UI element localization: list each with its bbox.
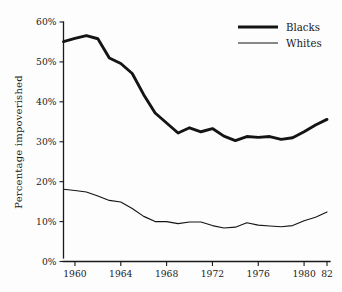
series-line-whites bbox=[64, 189, 328, 228]
x-tick-label: 1964 bbox=[109, 268, 133, 279]
x-axis-ticks bbox=[75, 262, 327, 267]
y-axis-tick-labels: 0%10%20%30%40%50%60% bbox=[36, 16, 57, 267]
y-tick-label: 40% bbox=[36, 96, 57, 107]
y-tick-label: 50% bbox=[36, 56, 57, 67]
poverty-rate-line-chart: 0%10%20%30%40%50%60% 1960196419681972197… bbox=[0, 0, 342, 292]
x-tick-label: 1976 bbox=[247, 268, 271, 279]
y-tick-label: 0% bbox=[42, 256, 57, 267]
chart-plot-area: 0%10%20%30%40%50%60% 1960196419681972197… bbox=[0, 0, 342, 292]
x-tick-label: 82 bbox=[321, 268, 333, 279]
series-line-blacks bbox=[64, 36, 328, 141]
x-tick-label: 1968 bbox=[155, 268, 179, 279]
x-tick-label: 1972 bbox=[201, 268, 224, 279]
y-tick-label: 30% bbox=[36, 136, 57, 147]
y-tick-label: 60% bbox=[36, 16, 57, 27]
y-axis-label: Percentage impoverished bbox=[13, 75, 24, 209]
x-tick-label: 1980 bbox=[292, 268, 316, 279]
legend-label-blacks: Blacks bbox=[286, 22, 320, 33]
y-tick-label: 10% bbox=[36, 216, 57, 227]
x-axis-tick-labels: 19601964196819721976198082 bbox=[63, 268, 333, 279]
legend-label-whites: Whites bbox=[286, 38, 322, 49]
x-tick-label: 1960 bbox=[63, 268, 87, 279]
chart-legend: BlacksWhites bbox=[238, 22, 322, 49]
chart-series-group bbox=[64, 36, 328, 228]
y-tick-label: 20% bbox=[36, 176, 57, 187]
